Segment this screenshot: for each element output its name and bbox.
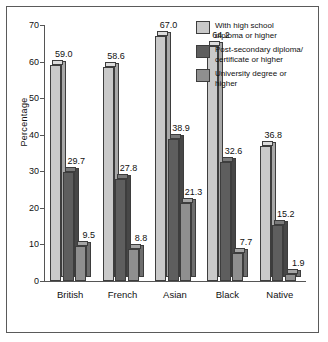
bar-value-label: 58.6 [107,51,125,61]
y-axis-tick-labels: 010203040506070 [19,7,39,334]
bar-value-label: 27.8 [120,163,138,173]
bar-top-face [222,157,233,162]
x-axis-label-asian: Asian [163,289,187,300]
bar-value-label: 36.8 [265,130,283,140]
bar-top-face [130,244,141,249]
chart-legend: With high schooldiploma or higherPost-se… [196,21,314,93]
bar-value-label: 8.8 [135,233,148,243]
bar-value-label: 59.0 [55,49,73,59]
y-axis-tick-50: 50 [21,93,39,103]
bar-value-label: 7.7 [240,237,253,247]
bar-front-face [260,146,271,281]
bar-top-face [287,269,298,274]
bar-front-face [232,253,243,281]
y-axis-tick-10: 10 [21,239,39,249]
y-axis-tick-30: 30 [21,166,39,176]
bar-front-face [63,172,74,281]
bar-front-face [180,203,191,281]
legend-swatch-icon [196,21,210,34]
legend-label-line2: certificate or higher [215,55,303,65]
bar-front-face [50,65,61,281]
y-axis-tick-70: 70 [21,20,39,30]
legend-label-line1: Post-secondary diploma/ [215,45,303,55]
bar-front-face [115,179,126,281]
bar-value-label: 32.6 [225,146,243,156]
bar-side-face [139,245,144,277]
legend-label-line2: higher [215,79,287,89]
y-axis-tick-0: 0 [21,276,39,286]
bar-value-label: 67.0 [160,20,178,30]
bar-native-series2 [272,225,283,281]
bar-value-label: 15.2 [277,209,295,219]
bar-native-series1 [260,146,271,281]
chart-plot-area: Percentage 010203040506070 59.029.79.558… [7,7,320,334]
bar-value-label: 1.9 [292,258,305,268]
y-axis-tick-40: 40 [21,130,39,140]
bar-front-face [128,249,139,281]
legend-swatch-icon [196,45,210,58]
bar-black-series3 [232,253,243,281]
y-axis-tickmark [40,62,44,63]
bar-front-face [272,225,283,281]
legend-label: With high schooldiploma or higher [215,21,277,40]
x-axis-category-labels: BritishFrenchAsianBlackNative [44,287,306,303]
bar-french-series3 [128,249,139,281]
bar-british-series2 [63,172,74,281]
bar-front-face [75,246,86,281]
bar-french-series2 [115,179,126,281]
bar-value-label: 9.5 [82,230,95,240]
bar-asian-series2 [168,139,179,281]
x-axis-label-british: British [57,289,83,300]
bar-top-face [234,248,245,253]
legend-item-3: University degree orhigher [196,69,314,88]
legend-label: Post-secondary diploma/certificate or hi… [215,45,303,64]
legend-swatch-icon [196,69,210,82]
y-axis-tickmark [40,208,44,209]
legend-label: University degree orhigher [215,69,287,88]
x-axis-label-black: Black [216,289,239,300]
bar-asian-series3 [180,203,191,281]
bar-native-series3 [285,274,296,281]
bar-top-face [157,31,168,36]
bar-top-face [117,174,128,179]
bar-top-face [105,62,116,67]
legend-item-1: With high schooldiploma or higher [196,21,314,40]
bar-top-face [52,60,63,65]
bar-front-face [103,67,114,281]
y-axis-tickmark [40,98,44,99]
bar-value-label: 29.7 [67,156,85,166]
bar-front-face [220,162,231,281]
bar-side-face [243,249,248,277]
y-axis-tickmark [40,171,44,172]
bar-british-series1 [50,65,61,281]
bar-top-face [77,241,88,246]
bar-asian-series1 [155,36,166,281]
y-axis-tick-60: 60 [21,57,39,67]
bar-front-face [285,274,296,281]
bar-top-face [262,141,273,146]
bar-value-label: 38.9 [172,123,190,133]
legend-label-line1: With high school [215,21,277,31]
chart-frame: Percentage 010203040506070 59.029.79.558… [6,6,319,333]
bar-french-series1 [103,67,114,281]
y-axis-tickmark [40,25,44,26]
bar-side-face [86,242,91,277]
bar-black-series2 [220,162,231,281]
x-axis-label-french: French [108,289,138,300]
bar-british-series3 [75,246,86,281]
y-axis-tickmark [40,281,44,282]
legend-label-line2: diploma or higher [215,31,277,41]
bar-side-face [191,199,196,277]
x-axis-label-native: Native [266,289,293,300]
bar-value-label: 21.3 [185,187,203,197]
y-axis-tickmark [40,244,44,245]
bar-top-face [182,198,193,203]
bar-front-face [168,139,179,281]
legend-label-line1: University degree or [215,69,287,79]
bar-front-face [155,36,166,281]
y-axis-tickmark [40,135,44,136]
y-axis-tick-20: 20 [21,203,39,213]
bar-top-face [274,220,285,225]
legend-item-2: Post-secondary diploma/certificate or hi… [196,45,314,64]
x-axis-line [44,281,306,282]
